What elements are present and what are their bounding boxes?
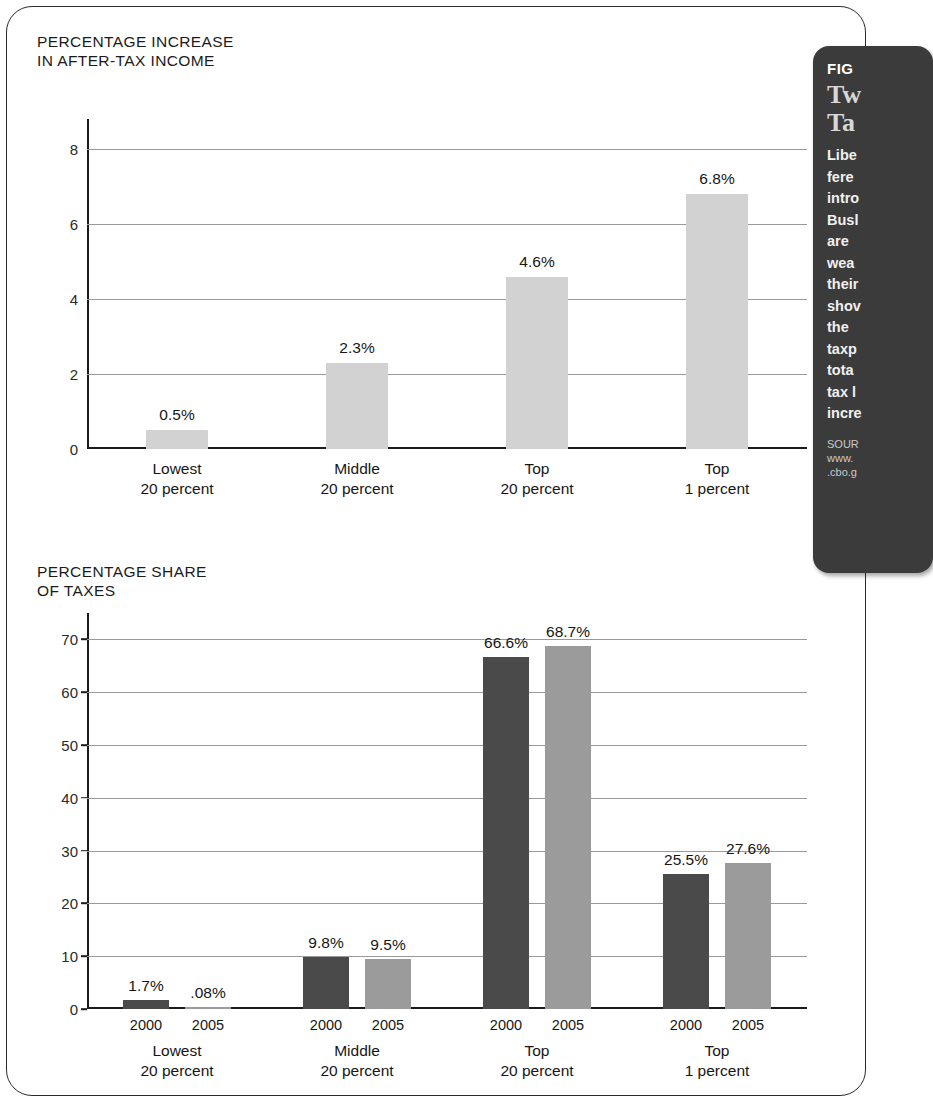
x-axis-category-label: Top 20 percent — [500, 1041, 573, 1081]
bar-value-label: .08% — [190, 984, 225, 1002]
y-axis-tick-label: 40 — [61, 789, 78, 806]
y-axis-tick-label: 4 — [70, 291, 78, 308]
figure-caption-panel: FIG Tw Ta Libe fere intro Busl are wea t… — [813, 46, 933, 573]
bar-value-label: 68.7% — [546, 623, 590, 641]
top-chart-y-axis — [87, 119, 89, 449]
x-axis-category-label: Middle 20 percent — [320, 1041, 393, 1081]
bar — [303, 957, 349, 1009]
y-axis-tick-label: 10 — [61, 948, 78, 965]
y-axis-tick-mark — [81, 1008, 87, 1010]
series-year-label: 2000 — [490, 1017, 522, 1033]
bar-value-label: 9.5% — [370, 936, 405, 954]
bar — [185, 1007, 231, 1009]
figure-title: Tw Ta — [827, 81, 933, 137]
x-axis-category-label: Middle 20 percent — [320, 459, 393, 499]
y-axis-tick-mark — [81, 955, 87, 957]
y-axis-tick-mark — [81, 797, 87, 799]
y-axis-tick-mark — [81, 744, 87, 746]
bar-value-label: 0.5% — [159, 406, 194, 424]
y-axis-tick-label: 6 — [70, 216, 78, 233]
y-axis-tick-label: 0 — [70, 1001, 78, 1018]
x-axis-category-label: Top 1 percent — [685, 1041, 750, 1081]
y-axis-tick-label: 0 — [70, 441, 78, 458]
bar-value-label: 25.5% — [664, 851, 708, 869]
gridline — [87, 798, 807, 799]
bar — [545, 646, 591, 1009]
top-chart-title: PERCENTAGE INCREASE IN AFTER-TAX INCOME — [37, 32, 234, 70]
bar — [326, 363, 388, 449]
bar — [483, 657, 529, 1009]
series-year-label: 2005 — [372, 1017, 404, 1033]
figure-number-label: FIG — [827, 60, 933, 77]
y-axis-tick-mark — [81, 639, 87, 641]
figure-caption-body: Libe fere intro Busl are wea their shov … — [827, 145, 933, 425]
gridline — [87, 745, 807, 746]
bottom-chart-y-axis — [87, 613, 89, 1009]
figure-source-note: SOUR www. .cbo.g — [827, 437, 933, 479]
y-axis-tick-label: 70 — [61, 631, 78, 648]
y-axis-tick-label: 2 — [70, 366, 78, 383]
y-axis-tick-mark — [81, 903, 87, 905]
bar-value-label: 27.6% — [726, 840, 770, 858]
bar-value-label: 6.8% — [699, 170, 734, 188]
y-axis-tick-label: 30 — [61, 842, 78, 859]
bar-value-label: 9.8% — [308, 934, 343, 952]
y-axis-tick-label: 20 — [61, 895, 78, 912]
series-year-label: 2000 — [670, 1017, 702, 1033]
y-axis-tick-mark — [81, 691, 87, 693]
series-year-label: 2005 — [552, 1017, 584, 1033]
y-axis-tick-label: 8 — [70, 141, 78, 158]
series-year-label: 2000 — [130, 1017, 162, 1033]
bar — [365, 959, 411, 1009]
bar-value-label: 4.6% — [519, 253, 554, 271]
x-axis-category-label: Lowest 20 percent — [140, 1041, 213, 1081]
gridline — [87, 692, 807, 693]
y-axis-tick-label: 60 — [61, 684, 78, 701]
bar — [146, 430, 208, 449]
x-axis-category-label: Top 20 percent — [500, 459, 573, 499]
bottom-chart-title: PERCENTAGE SHARE OF TAXES — [37, 562, 207, 600]
series-year-label: 2005 — [732, 1017, 764, 1033]
y-axis-tick-label: 50 — [61, 737, 78, 754]
bar — [725, 863, 771, 1009]
bar-value-label: 2.3% — [339, 339, 374, 357]
bar-value-label: 1.7% — [128, 977, 163, 995]
top-chart-plot-area: 024680.5%Lowest 20 percent2.3%Middle 20 … — [87, 119, 807, 449]
x-axis-category-label: Top 1 percent — [685, 459, 750, 499]
gridline — [87, 149, 807, 150]
bar — [123, 1000, 169, 1009]
bar-value-label: 66.6% — [484, 634, 528, 652]
bar — [506, 277, 568, 450]
gridline — [87, 639, 807, 640]
bar — [663, 874, 709, 1009]
bottom-chart-plot-area: 0102030405060701.7%2000.08%2005Lowest 20… — [87, 613, 807, 1009]
x-axis-category-label: Lowest 20 percent — [140, 459, 213, 499]
series-year-label: 2000 — [310, 1017, 342, 1033]
y-axis-tick-mark — [81, 850, 87, 852]
bar — [686, 194, 748, 449]
figure-card: PERCENTAGE INCREASE IN AFTER-TAX INCOME … — [6, 6, 866, 1096]
series-year-label: 2005 — [192, 1017, 224, 1033]
